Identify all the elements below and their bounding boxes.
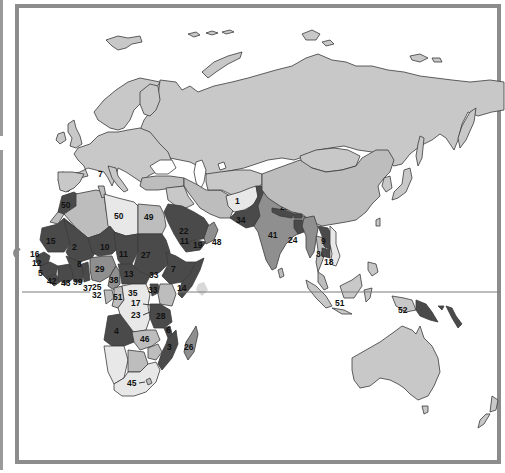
new-zealand xyxy=(478,396,498,428)
togo-benin xyxy=(82,262,90,282)
kenya xyxy=(158,284,176,306)
map-label: 8 xyxy=(77,259,82,269)
map-label: 35 xyxy=(128,288,138,298)
map-label: 39 xyxy=(73,277,83,287)
map-label: 48 xyxy=(212,237,222,247)
great-britain xyxy=(68,120,82,148)
bhutan xyxy=(294,214,302,218)
map-label: 29 xyxy=(95,264,105,274)
taiwan xyxy=(376,218,380,226)
map-label: 51 xyxy=(113,292,123,302)
map-label: 32 xyxy=(92,290,102,300)
malay-peninsula xyxy=(318,272,328,290)
map-label: 24 xyxy=(288,235,298,245)
map-label: 1 xyxy=(235,196,240,206)
map-label: 49 xyxy=(144,212,154,222)
cape-verde-mark xyxy=(14,249,20,258)
map-label: 19 xyxy=(193,240,203,250)
map-label: 42 xyxy=(47,276,57,286)
papua-new-guinea xyxy=(416,300,438,322)
novaya-zemlya xyxy=(202,52,242,78)
map-label: 46 xyxy=(140,334,150,344)
map-label: 7 xyxy=(98,169,103,179)
philippines xyxy=(368,262,378,276)
franz-josef-land xyxy=(188,30,234,37)
map-label: 4 xyxy=(114,326,119,336)
map-label: 45 xyxy=(127,378,137,388)
map-label: 15 xyxy=(46,236,56,246)
ireland xyxy=(56,132,66,144)
map-label: 11 xyxy=(180,236,189,246)
map-label: 5 xyxy=(38,268,43,278)
japan xyxy=(392,168,412,200)
map-label: 9 xyxy=(321,236,326,246)
svalbard xyxy=(106,36,142,50)
map-label: 3 xyxy=(167,342,172,352)
map-label: 7 xyxy=(171,264,176,274)
map-label: 50 xyxy=(61,200,71,210)
new-siberian-islands xyxy=(410,54,442,62)
map-label: 33 xyxy=(148,285,158,295)
map-label: 50 xyxy=(114,211,124,221)
map-label: 6 xyxy=(166,325,171,335)
world-map: 7 1 34 22 11 19 48 41 21 20 24 36 9 18 xyxy=(0,0,505,473)
korea xyxy=(382,176,392,192)
map-label: 52 xyxy=(398,305,408,315)
map-label: 34 xyxy=(236,215,246,225)
indian-ocean-island xyxy=(196,282,208,296)
map-label: 17 xyxy=(131,298,141,308)
iberia xyxy=(58,172,84,192)
map-label: 41 xyxy=(268,230,278,240)
java xyxy=(332,308,352,314)
tasmania xyxy=(422,406,428,414)
aral-sea xyxy=(218,162,226,170)
map-label: 23 xyxy=(131,310,141,320)
map-label: 33 xyxy=(149,270,159,280)
map-label: 43 xyxy=(61,278,71,288)
map-label: 12 xyxy=(32,258,42,268)
map-label: 11 xyxy=(119,249,128,259)
solomon-islands xyxy=(438,306,462,328)
map-label: 22 xyxy=(179,226,189,236)
map-label: 27 xyxy=(141,250,151,260)
map-label: 26 xyxy=(184,342,194,352)
sumatra xyxy=(306,280,332,308)
map-label: 13 xyxy=(124,269,134,279)
severnaya-zemlya xyxy=(302,30,334,46)
sulawesi xyxy=(364,288,372,302)
map-label: 2 xyxy=(72,242,77,252)
map-label: 38 xyxy=(109,275,119,285)
borneo xyxy=(340,274,362,298)
sri-lanka xyxy=(278,268,284,278)
map-label: 28 xyxy=(156,311,166,321)
map-label: 18 xyxy=(324,257,334,267)
map-label: 10 xyxy=(100,242,110,252)
australia xyxy=(352,326,440,400)
map-label: 51 xyxy=(335,298,345,308)
